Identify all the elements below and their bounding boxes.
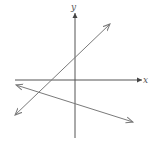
- coordinate-plane: [0, 0, 155, 148]
- line-positive-slope: [15, 24, 110, 115]
- x-axis-label: x: [143, 76, 148, 85]
- y-axis-label: y: [71, 3, 76, 12]
